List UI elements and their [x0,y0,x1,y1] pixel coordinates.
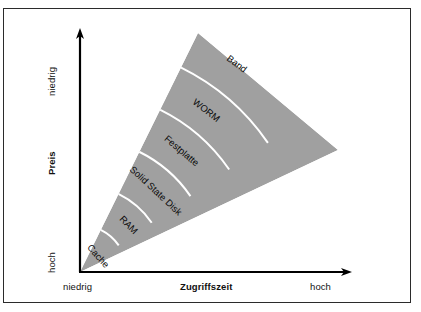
wedge-body [80,33,338,272]
x-axis-right-label: hoch [310,281,331,292]
wedge-fan [80,33,338,272]
diagram-canvas: CacheRAMSolid State DiskFestplatteWORMBa… [0,0,421,312]
y-axis-title: Preis [46,151,57,175]
y-axis-bottom-label: hoch [46,252,57,273]
x-axis-title: Zugriffszeit [180,281,232,292]
wedge-svg: CacheRAMSolid State DiskFestplatteWORMBa… [0,0,421,312]
y-axis-top-label: niedrig [46,67,57,96]
x-axis-left-label: niedrig [63,281,92,292]
